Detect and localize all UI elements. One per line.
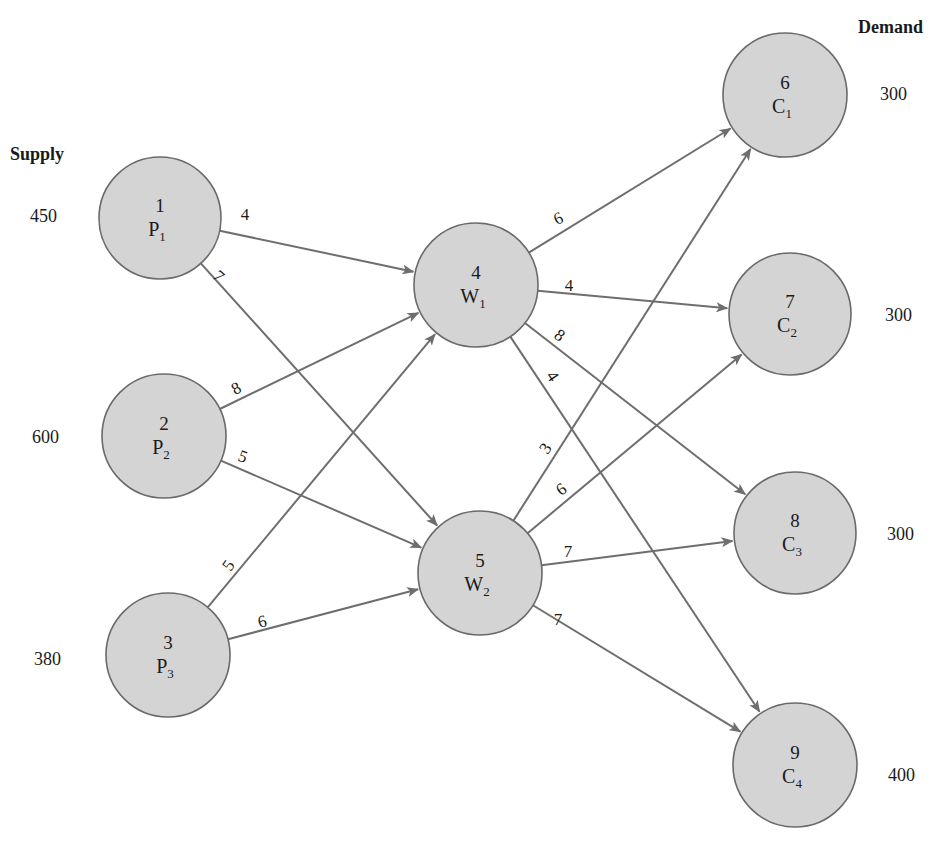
edge-cost-label: 7 xyxy=(564,542,573,561)
edge-5-7: 6 xyxy=(528,354,742,533)
supply-value-node-1: 450 xyxy=(30,206,57,226)
node-subscript: 2 xyxy=(163,447,170,462)
node-subscript: 2 xyxy=(790,325,797,340)
edge-cost-label: 6 xyxy=(552,479,570,499)
edge-4-9: 4 xyxy=(510,337,759,712)
node-5: 5W2 xyxy=(418,511,542,635)
node-subscript: 3 xyxy=(167,666,174,681)
edge-4-7: 4 xyxy=(538,276,728,308)
edge-2-5: 5 xyxy=(221,446,421,547)
demand-header: Demand xyxy=(858,17,923,37)
node-letter: P xyxy=(156,655,167,677)
node-subscript: 3 xyxy=(795,544,802,559)
demand-value-node-9: 400 xyxy=(888,765,915,785)
edge-cost-label: 4 xyxy=(565,276,574,295)
node-number: 9 xyxy=(790,742,800,763)
node-number: 8 xyxy=(790,510,800,531)
arrow-line xyxy=(529,129,731,253)
edge-1-4: 4 xyxy=(220,205,414,272)
arrow-line xyxy=(510,337,759,712)
node-subscript: 2 xyxy=(483,584,490,599)
edge-cost-label: 3 xyxy=(535,439,555,457)
edge-cost-label: 8 xyxy=(228,378,244,399)
node-letter: W xyxy=(464,573,483,595)
arrow-line xyxy=(220,231,414,272)
node-9: 9C4 xyxy=(733,703,857,827)
edge-cost-label: 4 xyxy=(542,367,563,385)
node-3: 3P3 xyxy=(106,593,230,717)
edge-cost-label: 5 xyxy=(236,446,250,467)
node-number: 7 xyxy=(785,291,795,312)
node-7: 7C2 xyxy=(729,253,851,375)
arrow-line xyxy=(533,605,740,731)
node-subscript: 1 xyxy=(479,296,486,311)
arrow-line xyxy=(528,354,742,533)
demand-value-node-8: 300 xyxy=(887,524,914,544)
node-circle xyxy=(99,157,221,279)
demand-value-node-7: 300 xyxy=(885,305,912,325)
edge-5-8: 7 xyxy=(542,541,733,565)
node-1: 1P1 xyxy=(99,157,221,279)
edge-cost-label: 6 xyxy=(256,611,269,632)
node-number: 4 xyxy=(471,262,481,283)
node-letter: P xyxy=(152,436,163,458)
node-8: 8C3 xyxy=(734,472,856,594)
edge-cost-label: 8 xyxy=(551,325,569,345)
node-letter: C xyxy=(772,95,785,117)
edges: 47855664843677 xyxy=(201,129,760,732)
node-4: 4W1 xyxy=(414,223,538,347)
node-subscript: 4 xyxy=(795,776,802,791)
nodes: 1P12P23P34W15W26C17C28C39C4 xyxy=(99,33,857,827)
edge-5-9: 7 xyxy=(533,605,740,731)
node-2: 2P2 xyxy=(102,374,226,498)
node-number: 6 xyxy=(780,72,790,93)
node-letter: C xyxy=(777,314,790,336)
node-subscript: 1 xyxy=(159,229,166,244)
node-subscript: 1 xyxy=(785,106,792,121)
edge-3-5: 6 xyxy=(228,589,418,639)
node-letter: P xyxy=(148,218,159,240)
node-circle xyxy=(102,374,226,498)
edge-5-6: 3 xyxy=(513,149,750,521)
node-letter: C xyxy=(782,765,795,787)
node-number: 2 xyxy=(159,413,169,434)
node-number: 1 xyxy=(155,195,165,216)
node-6: 6C1 xyxy=(723,33,847,157)
node-number: 3 xyxy=(163,632,173,653)
supply-value-node-3: 380 xyxy=(34,649,61,669)
edge-cost-label: 7 xyxy=(554,610,563,629)
edge-4-6: 6 xyxy=(529,129,731,253)
edge-cost-label: 4 xyxy=(241,205,250,224)
arrow-line xyxy=(513,149,750,521)
supply-value-node-2: 600 xyxy=(32,427,59,447)
demand-value-node-6: 300 xyxy=(880,84,907,104)
node-number: 5 xyxy=(475,550,485,571)
edge-cost-label: 5 xyxy=(218,556,238,574)
node-letter: C xyxy=(782,533,795,555)
transshipment-network-diagram: 47855664843677 1P12P23P34W15W26C17C28C39… xyxy=(0,0,943,842)
edge-cost-label: 6 xyxy=(550,208,566,229)
node-letter: W xyxy=(460,285,479,307)
supply-header: Supply xyxy=(10,144,64,164)
node-circle xyxy=(106,593,230,717)
